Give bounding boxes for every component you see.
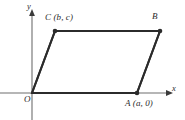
vertex-dot-B (158, 29, 163, 34)
vertex-dot-C (53, 29, 58, 34)
vertex-dot-A (135, 91, 140, 96)
vertex-label-B: B (152, 11, 158, 21)
edge-C-O (32, 31, 55, 93)
x-axis-label: x (172, 83, 176, 93)
coordinate-geometry-figure: C (b, c) B A (a, 0) O x y (0, 0, 185, 120)
origin-label: O (24, 94, 31, 104)
vertex-label-A: A (a, 0) (125, 98, 153, 108)
vertex-label-C: C (b, c) (45, 12, 73, 22)
edge-A-B (137, 31, 160, 93)
y-axis-label: y (27, 1, 31, 11)
